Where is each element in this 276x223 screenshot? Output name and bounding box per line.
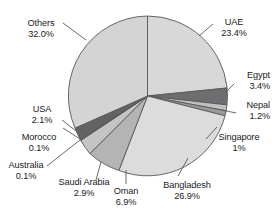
label-singapore: Singapore 1% — [206, 132, 272, 153]
label-nepal: Nepal 1.2% — [200, 100, 270, 121]
label-bangladesh: Bangladesh 26.9% — [150, 180, 224, 201]
label-bangladesh-name: Bangladesh — [150, 180, 224, 191]
label-others-name: Others — [16, 18, 66, 29]
pie-chart: Others 32.0% UAE 23.4% Egypt 3.4% Nepal … — [0, 0, 276, 223]
label-uae: UAE 23.4% — [213, 17, 255, 38]
label-saudi-arabia-value: 2.9% — [48, 188, 120, 199]
label-saudi-arabia: Saudi Arabia 2.9% — [48, 177, 120, 198]
label-usa-value: 2.1% — [22, 115, 62, 126]
label-uae-value: 23.4% — [213, 28, 255, 39]
label-uae-name: UAE — [213, 17, 255, 28]
label-usa: USA 2.1% — [22, 104, 62, 125]
label-australia-name: Australia — [2, 160, 50, 171]
label-australia: Australia 0.1% — [2, 160, 50, 181]
label-singapore-name: Singapore — [206, 132, 272, 143]
label-egypt-value: 3.4% — [200, 81, 270, 92]
label-egypt-name: Egypt — [200, 70, 270, 81]
label-usa-name: USA — [22, 104, 62, 115]
label-nepal-name: Nepal — [200, 100, 270, 111]
label-others: Others 32.0% — [16, 18, 66, 39]
label-australia-value: 0.1% — [2, 171, 50, 182]
label-nepal-value: 1.2% — [200, 111, 270, 122]
leader-others — [63, 23, 86, 40]
leader-uae — [199, 24, 213, 36]
label-egypt: Egypt 3.4% — [200, 70, 270, 91]
label-bangladesh-value: 26.9% — [150, 191, 224, 202]
label-morocco: Morocco 0.1% — [14, 132, 64, 153]
label-others-value: 32.0% — [16, 29, 66, 40]
label-saudi-arabia-name: Saudi Arabia — [48, 177, 120, 188]
label-singapore-value: 1% — [206, 143, 272, 154]
label-morocco-value: 0.1% — [14, 143, 64, 154]
label-morocco-name: Morocco — [14, 132, 64, 143]
pie-slices — [68, 16, 227, 176]
